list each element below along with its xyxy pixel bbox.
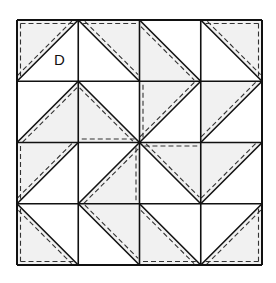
quilt-diagram: D bbox=[0, 0, 276, 283]
block-label: D bbox=[54, 51, 65, 68]
